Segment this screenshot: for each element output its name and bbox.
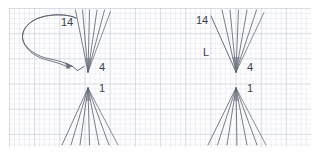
right-top-label: 14 xyxy=(196,15,208,26)
diagram-artwork xyxy=(0,0,325,155)
diagram-canvas: 14 4 1 14 L 4 1 xyxy=(0,0,325,155)
left-loop-label: 14 xyxy=(61,17,73,28)
left-upper-fan xyxy=(76,10,111,72)
right-upper-vertex-label: 4 xyxy=(247,62,253,73)
right-side-label: L xyxy=(203,47,209,58)
left-arrowhead-icon xyxy=(66,63,84,71)
right-lower-vertex-label: 1 xyxy=(247,83,253,94)
left-upper-vertex-label: 4 xyxy=(99,62,105,73)
left-lower-vertex-label: 1 xyxy=(99,83,105,94)
left-lower-fan xyxy=(62,88,118,145)
